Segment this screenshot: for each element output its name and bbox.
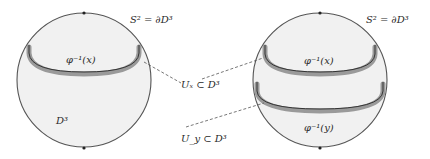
neighborhood-connectors: Uₓ ⊂ D³ U_y ⊂ D³ bbox=[144, 58, 264, 145]
right-fiber-y-label: φ⁻¹(y) bbox=[304, 122, 334, 133]
north-pole-dot bbox=[82, 11, 85, 14]
left-interior-label: D³ bbox=[55, 115, 68, 126]
uy-dash-right bbox=[186, 103, 264, 127]
right-ball: φ⁻¹(x) φ⁻¹(y) S² = ∂D³ bbox=[253, 11, 409, 149]
left-boundary-label: S² = ∂D³ bbox=[130, 14, 173, 25]
ux-label: Uₓ ⊂ D³ bbox=[181, 79, 220, 90]
right-boundary-label: S² = ∂D³ bbox=[366, 14, 409, 25]
left-ball: φ⁻¹(x) D³ S² = ∂D³ bbox=[17, 11, 173, 149]
uy-label: U_y ⊂ D³ bbox=[181, 133, 227, 145]
south-pole-dot bbox=[318, 146, 321, 149]
right-fiber-x-label: φ⁻¹(x) bbox=[304, 55, 334, 66]
south-pole-dot bbox=[82, 146, 85, 149]
north-pole-dot bbox=[318, 11, 321, 14]
left-fiber-label: φ⁻¹(x) bbox=[66, 54, 96, 65]
diagram-canvas: φ⁻¹(x) D³ S² = ∂D³ φ⁻¹(x) φ⁻¹(y) S² = ∂D… bbox=[0, 0, 430, 159]
left-ball-disk bbox=[17, 13, 151, 147]
